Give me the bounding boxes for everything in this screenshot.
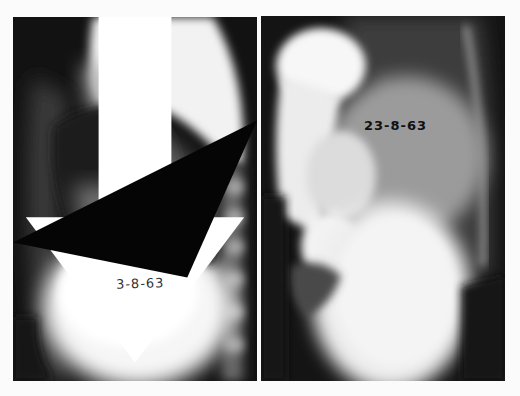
right-radiograph-image: [261, 16, 505, 381]
date-label-left: 3-8-63: [116, 275, 165, 292]
date-label-right: 23-8-63: [364, 118, 427, 133]
right-radiograph-panel: 23-8-63: [261, 16, 505, 381]
black-arrowhead-icon: [13, 17, 257, 381]
left-radiograph-panel: 3-8-63: [13, 17, 257, 381]
